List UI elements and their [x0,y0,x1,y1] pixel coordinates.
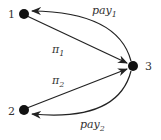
edge-label-pay1: pay1 [92,4,117,19]
node-2-label: 2 [8,105,15,118]
edge-label-pi2: π2 [51,74,64,89]
edge-3-to-2 [32,71,131,115]
network-diagram: 1 2 3 π1 pay1 π2 pay2 [0,0,161,140]
node-3 [128,61,138,71]
node-1 [19,9,29,19]
node-2 [19,105,29,115]
node-3-label: 3 [145,60,152,73]
edge-label-pay2: pay2 [80,118,105,133]
edge-label-pi1: π1 [51,43,64,58]
edge-1-to-3 [27,16,127,63]
edge-2-to-3 [27,69,127,108]
node-1-label: 1 [8,8,15,21]
